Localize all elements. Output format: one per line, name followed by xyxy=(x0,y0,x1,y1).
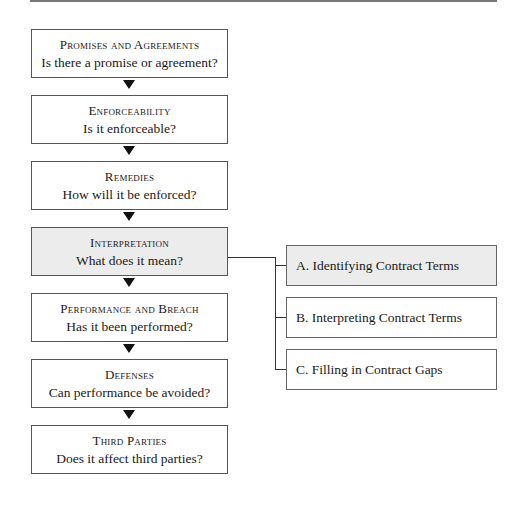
down-arrow-icon xyxy=(123,344,135,353)
step-question: Does it affect third parties? xyxy=(32,450,227,467)
substep-filling-contract-gaps: C. Filling in Contract Gaps xyxy=(286,349,497,390)
step-enforceability: Enforceability Is it enforceable? xyxy=(31,95,228,144)
down-arrow-icon xyxy=(123,410,135,419)
step-title: Third Parties xyxy=(32,433,227,449)
step-question: Is it enforceable? xyxy=(32,120,227,137)
step-question: Has it been performed? xyxy=(32,318,227,335)
top-rule xyxy=(30,0,497,2)
step-interpretation: Interpretation What does it mean? xyxy=(31,227,228,276)
connector-a xyxy=(275,265,286,266)
step-question: What does it mean? xyxy=(32,252,227,269)
connector-c xyxy=(275,369,286,370)
step-title: Defenses xyxy=(32,367,227,383)
step-title: Promises and Agreements xyxy=(32,37,227,53)
step-third-parties: Third Parties Does it affect third parti… xyxy=(31,425,228,474)
step-performance-and-breach: Performance and Breach Has it been perfo… xyxy=(31,293,228,342)
step-question: Is there a promise or agreement? xyxy=(32,54,227,71)
down-arrow-icon xyxy=(123,80,135,89)
step-promises-and-agreements: Promises and Agreements Is there a promi… xyxy=(31,29,228,78)
step-defenses: Defenses Can performance be avoided? xyxy=(31,359,228,408)
down-arrow-icon xyxy=(123,212,135,221)
step-question: Can performance be avoided? xyxy=(32,384,227,401)
connector-b xyxy=(275,317,286,318)
connector-horizontal xyxy=(228,257,276,258)
substep-identifying-contract-terms: A. Identifying Contract Terms xyxy=(286,245,497,286)
step-title: Interpretation xyxy=(32,235,227,251)
step-title: Performance and Breach xyxy=(32,301,227,317)
down-arrow-icon xyxy=(123,278,135,287)
step-title: Remedies xyxy=(32,169,227,185)
step-remedies: Remedies How will it be enforced? xyxy=(31,161,228,210)
step-title: Enforceability xyxy=(32,103,227,119)
substep-interpreting-contract-terms: B. Interpreting Contract Terms xyxy=(286,297,497,338)
step-question: How will it be enforced? xyxy=(32,186,227,203)
down-arrow-icon xyxy=(123,146,135,155)
connector-vertical xyxy=(275,257,276,370)
